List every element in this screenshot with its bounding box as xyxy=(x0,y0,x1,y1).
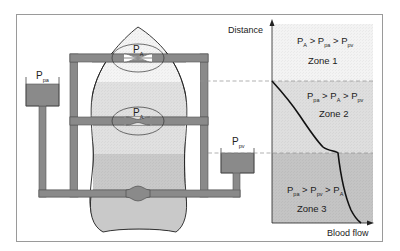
zone-3-label: Zone 3 xyxy=(297,203,327,214)
zone-graph: Distance Blood flow PA > Ppa > Ppv Zone … xyxy=(200,19,374,238)
x-axis-label: Blood flow xyxy=(327,228,369,238)
venous-pressure-label: Ppv xyxy=(232,136,245,149)
west-zones-diagram: PA PA Ppa Ppv Distance Blood flow PA > P… xyxy=(0,0,400,251)
lung-base xyxy=(90,196,186,232)
frame-window-bottom-right xyxy=(185,125,200,190)
zone-2-label: Zone 2 xyxy=(319,108,349,119)
frame-window-top-right xyxy=(186,62,200,117)
y-axis-arrow-icon xyxy=(270,19,275,26)
frame-window-bottom-left xyxy=(78,125,93,190)
zone-1-label: Zone 1 xyxy=(308,55,338,66)
y-axis-label: Distance xyxy=(228,25,263,35)
arterial-pressure-label: Ppa xyxy=(36,70,50,83)
venous-reservoir xyxy=(221,148,254,173)
